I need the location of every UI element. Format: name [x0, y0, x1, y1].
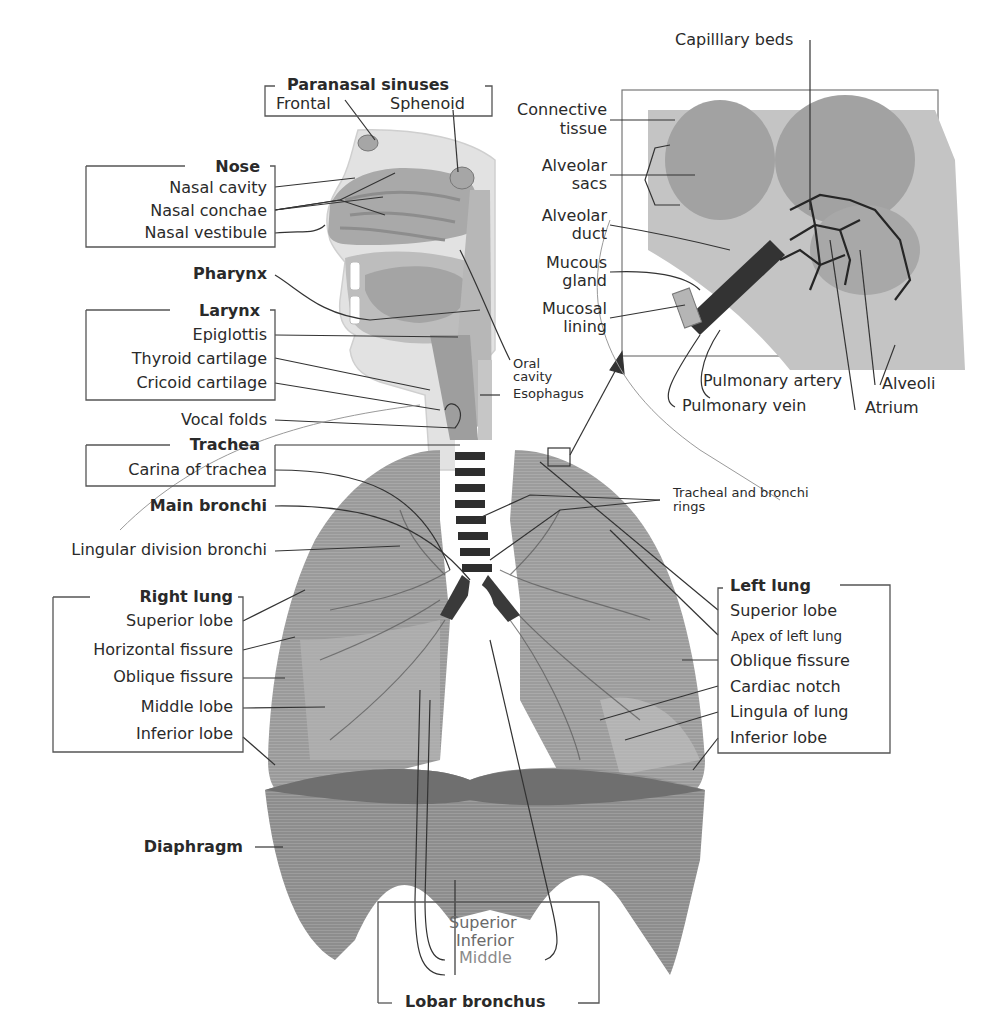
label-tracheal-rings-line1: Tracheal and bronchi — [673, 486, 809, 500]
label-frontal-sinus: Frontal — [276, 94, 331, 114]
frontal-sinus — [358, 135, 378, 151]
label-alveoli: Alveoli — [882, 374, 935, 394]
label-carina-of-trachea: Carina of trachea — [128, 460, 267, 480]
label-left-inferior-lobe: Inferior lobe — [730, 728, 827, 748]
label-horizontal-fissure: Horizontal fissure — [93, 640, 233, 660]
label-right-inferior-lobe: Inferior lobe — [136, 724, 233, 744]
label-main-bronchi: Main bronchi — [150, 496, 267, 516]
label-capillary-beds: Capilllary beds — [675, 30, 793, 50]
label-right-superior-lobe: Superior lobe — [126, 611, 233, 631]
label-epiglottis: Epiglottis — [193, 325, 267, 345]
label-lingula-of-lung: Lingula of lung — [730, 702, 849, 722]
label-esophagus: Esophagus — [513, 387, 584, 401]
label-mucosal-lining-1: Mucosal — [542, 299, 607, 319]
alveoli-inset — [622, 90, 965, 370]
label-mucosal-lining-2: lining — [563, 317, 607, 337]
label-sphenoid-sinus: Sphenoid — [390, 94, 465, 114]
label-oral-cavity-line2: cavity — [513, 370, 552, 384]
label-vocal-folds: Vocal folds — [181, 410, 267, 430]
label-pulmonary-vein: Pulmonary vein — [682, 396, 806, 416]
label-pulmonary-artery: Pulmonary artery — [703, 371, 842, 391]
label-alveolar-duct-1: Alveolar — [542, 206, 607, 226]
label-paranasal-sinuses: Paranasal sinuses — [287, 75, 449, 95]
label-lobar-superior: Superior — [449, 913, 517, 933]
label-lobar-bronchus: Lobar bronchus — [405, 992, 545, 1012]
label-mucous-gland-1: Mucous — [546, 253, 607, 273]
label-middle-lobe: Middle lobe — [141, 697, 233, 717]
label-pharynx: Pharynx — [193, 264, 267, 284]
label-larynx: Larynx — [199, 301, 260, 321]
label-lobar-middle: Middle — [459, 948, 512, 968]
label-connective-tissue-2: tissue — [560, 119, 607, 139]
label-nasal-vestibule: Nasal vestibule — [145, 223, 267, 243]
label-connective-tissue-1: Connective — [517, 100, 607, 120]
label-cricoid-cartilage: Cricoid cartilage — [136, 373, 267, 393]
label-lingular-division-bronchi: Lingular division bronchi — [71, 540, 267, 560]
label-alveolar-duct-2: duct — [572, 224, 607, 244]
label-atrium: Atrium — [865, 398, 919, 418]
label-left-superior-lobe: Superior lobe — [730, 601, 837, 621]
label-trachea: Trachea — [190, 435, 260, 455]
label-alveolar-sacs-1: Alveolar — [542, 156, 607, 176]
label-thyroid-cartilage: Thyroid cartilage — [132, 349, 267, 369]
label-left-lung: Left lung — [730, 576, 811, 596]
label-right-lung: Right lung — [139, 587, 233, 607]
label-tracheal-rings-line2: rings — [673, 500, 705, 514]
label-diaphragm: Diaphragm — [144, 837, 243, 857]
label-nasal-conchae: Nasal conchae — [150, 201, 267, 221]
label-nose: Nose — [215, 157, 260, 177]
label-right-oblique-fissure: Oblique fissure — [113, 667, 233, 687]
head-profile — [327, 130, 495, 470]
label-left-oblique-fissure: Oblique fissure — [730, 651, 850, 671]
label-cardiac-notch: Cardiac notch — [730, 677, 841, 697]
label-alveolar-sacs-2: sacs — [572, 174, 607, 194]
sphenoid-sinus — [450, 167, 474, 189]
label-nasal-cavity: Nasal cavity — [169, 178, 267, 198]
label-apex-of-left-lung: Apex of left lung — [731, 626, 842, 646]
label-mucous-gland-2: gland — [562, 271, 607, 291]
